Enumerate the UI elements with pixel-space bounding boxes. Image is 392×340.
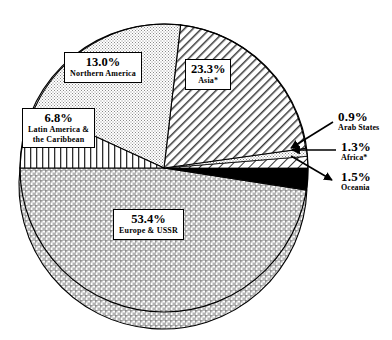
slice-name-latin-america-line2: the Caribbean <box>28 135 89 144</box>
callout-label-oceania: 1.5% Oceania <box>341 170 371 192</box>
slice-value-latin-america: 6.8% <box>28 111 89 125</box>
callout-name-arab-states: Arab States <box>338 124 379 132</box>
callout-value-oceania: 1.5% <box>341 170 371 184</box>
callout-name-oceania: Oceania <box>341 184 371 192</box>
slice-value-northern-america: 13.0% <box>70 55 136 69</box>
pie-chart-figure: 13.0% Northern America 23.3% Asia* 6.8% … <box>0 0 392 340</box>
slice-label-asia: 23.3% Asia* <box>185 59 231 90</box>
slice-name-europe-ussr: Europe & USSR <box>119 226 178 235</box>
slice-name-northern-america: Northern America <box>70 69 136 78</box>
callout-label-arab-states: 0.9% Arab States <box>338 110 379 132</box>
pie-chart-canvas <box>0 0 392 340</box>
callout-value-arab-states: 0.9% <box>338 110 379 124</box>
callout-label-africa: 1.3% Africa* <box>341 140 371 162</box>
slice-name-asia: Asia* <box>191 76 225 85</box>
slice-label-latin-america: 6.8% Latin America & the Caribbean <box>22 108 95 148</box>
pie-slice-europe-ussr <box>19 168 307 329</box>
callout-name-africa: Africa* <box>341 154 371 162</box>
callout-value-africa: 1.3% <box>341 140 371 154</box>
slice-value-europe-ussr: 53.4% <box>119 212 178 226</box>
pie-slice-asia <box>164 25 306 168</box>
slice-value-asia: 23.3% <box>191 62 225 76</box>
slice-label-europe-ussr: 53.4% Europe & USSR <box>113 209 184 240</box>
slice-label-northern-america: 13.0% Northern America <box>64 52 142 83</box>
slice-name-latin-america-line1: Latin America & <box>28 125 89 134</box>
